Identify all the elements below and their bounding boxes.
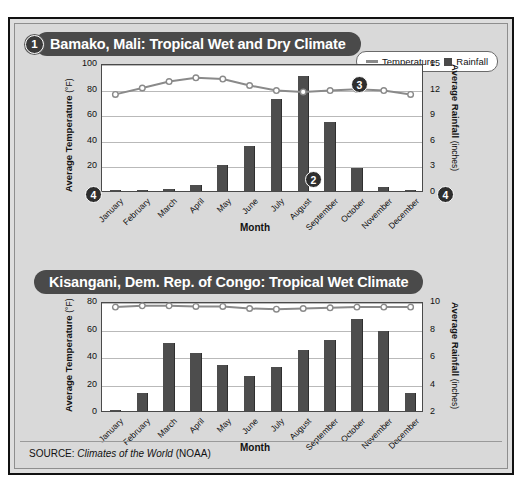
data-point-marker: [247, 306, 253, 312]
y-axis-right-title: Average Rainfall (inches): [450, 302, 461, 409]
plot-area: [101, 64, 423, 192]
y-axis-left-tick: 100: [75, 58, 97, 68]
data-point-marker: [408, 304, 414, 310]
chart2-header: Kisangani, Dem. Rep. of Congo: Tropical …: [34, 270, 423, 294]
data-point-marker: [381, 88, 387, 94]
data-point-marker: [408, 92, 414, 98]
callout-4-right[interactable]: 4: [437, 186, 454, 203]
source-note: SOURCE: Climates of the World (NOAA): [29, 448, 211, 459]
chart1-title: Bamako, Mali: Tropical Wet and Dry Clima…: [35, 32, 361, 56]
data-point-marker: [327, 305, 333, 311]
y-axis-left-tick: 80: [75, 84, 97, 94]
y-axis-right-tick: 10: [430, 296, 440, 306]
source-divider: [20, 441, 502, 442]
y-axis-right-title-unit: (inches): [450, 379, 460, 409]
y-axis-right-title-text: Average Rainfall: [450, 64, 461, 138]
y-axis-right-tick: 8: [430, 324, 435, 334]
data-point-marker: [166, 303, 172, 309]
data-point-marker: [193, 304, 199, 310]
chart1-header: 1 Bamako, Mali: Tropical Wet and Dry Cli…: [25, 32, 361, 56]
source-prefix: SOURCE:: [29, 448, 75, 459]
temperature-line: [102, 65, 424, 193]
data-point-marker: [300, 306, 306, 312]
y-axis-right-tick: 4: [430, 379, 435, 389]
data-point-marker: [274, 88, 280, 94]
y-axis-right-tick: 6: [430, 135, 435, 145]
data-point-marker: [220, 76, 226, 82]
data-point-marker: [300, 89, 306, 95]
data-point-marker: [140, 303, 146, 309]
y-axis-right-tick: 12: [430, 84, 440, 94]
y-axis-left-tick: 40: [75, 135, 97, 145]
y-axis-right-tick: 15: [430, 58, 440, 68]
poster-inner: 1 Bamako, Mali: Tropical Wet and Dry Cli…: [14, 23, 508, 469]
source-suffix: (NOAA): [176, 448, 211, 459]
plot-area: [101, 302, 423, 412]
callout-2[interactable]: 2: [305, 171, 322, 188]
y-axis-right-title-unit: (inches): [450, 141, 460, 171]
x-axis-title: Month: [240, 442, 270, 453]
chart-kisangani: 020406080246810Average Temperature (°F)A…: [33, 296, 501, 461]
y-axis-left-title-unit: (°F): [64, 78, 74, 92]
y-axis-right-tick: 3: [430, 160, 435, 170]
data-point-marker: [140, 85, 146, 91]
poster-frame: 1 Bamako, Mali: Tropical Wet and Dry Cli…: [8, 17, 514, 475]
callout-4-left[interactable]: 4: [85, 186, 102, 203]
data-point-marker: [327, 88, 333, 94]
data-point-marker: [354, 304, 360, 310]
y-axis-left-title: Average Temperature (°F): [63, 78, 74, 192]
chart2-title: Kisangani, Dem. Rep. of Congo: Tropical …: [34, 270, 423, 294]
y-axis-left-title-unit: (°F): [64, 298, 74, 312]
y-axis-left-title: Average Temperature (°F): [63, 298, 74, 412]
data-point-marker: [166, 79, 172, 85]
y-axis-left-tick: 60: [75, 109, 97, 119]
callout-3[interactable]: 3: [351, 76, 368, 93]
chart-bamako: 02040608010003691215Average Temperature …: [33, 58, 501, 263]
y-axis-left-title-text: Average Temperature: [63, 315, 74, 412]
data-point-marker: [113, 304, 119, 310]
y-axis-left-tick: 20: [75, 379, 97, 389]
y-axis-left-tick: 40: [75, 351, 97, 361]
y-axis-right-tick: 6: [430, 351, 435, 361]
temperature-line: [102, 303, 424, 413]
callout-1[interactable]: 1: [25, 35, 44, 54]
data-point-marker: [220, 304, 226, 310]
data-point-marker: [247, 83, 253, 89]
y-axis-left-tick: 80: [75, 296, 97, 306]
y-axis-left-tick: 0: [75, 406, 97, 416]
data-point-marker: [193, 75, 199, 81]
y-axis-right-tick: 9: [430, 109, 435, 119]
y-axis-right-tick: 0: [430, 186, 435, 196]
y-axis-right-tick: 2: [430, 406, 435, 416]
y-axis-right-title: Average Rainfall (inches): [450, 64, 461, 171]
x-axis-title: Month: [240, 222, 270, 233]
data-point-marker: [274, 306, 280, 312]
y-axis-left-title-text: Average Temperature: [63, 95, 74, 192]
data-point-marker: [113, 92, 119, 98]
y-axis-right-title-text: Average Rainfall: [450, 302, 461, 376]
y-axis-left-tick: 20: [75, 160, 97, 170]
data-point-marker: [381, 304, 387, 310]
source-title: Climates of the World: [77, 448, 173, 459]
y-axis-left-tick: 60: [75, 324, 97, 334]
